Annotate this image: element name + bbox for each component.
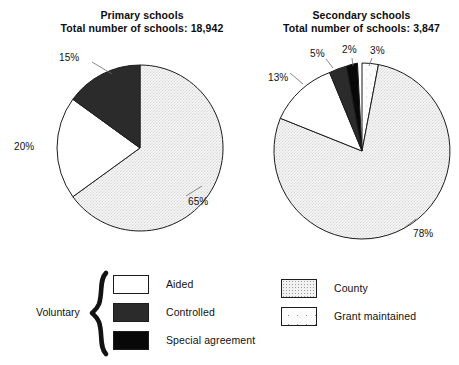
secondary-label-controlled: 5%	[310, 48, 325, 59]
legend-item-county[interactable]: County	[281, 274, 416, 302]
secondary-label-county: 78%	[413, 228, 433, 239]
primary-label-aided: 20%	[14, 141, 34, 152]
legend-left: Aided Controlled Special agreement	[113, 270, 255, 354]
figure-pie-charts: Primary schools Total number of schools:…	[0, 0, 459, 365]
legend-label-grant-maintained: Grant maintained	[334, 310, 416, 322]
legend-label-special-agreement: Special agreement	[166, 334, 255, 346]
legend-swatch-controlled	[113, 303, 149, 322]
legend-item-grant-maintained[interactable]: Grant maintained	[281, 302, 416, 330]
primary-label-controlled: 15%	[59, 52, 79, 63]
legend-label-controlled: Controlled	[166, 306, 215, 318]
primary-leader-controlled	[92, 62, 112, 74]
legend-swatch-county	[281, 279, 317, 298]
legend-swatch-grant-maintained	[281, 307, 317, 326]
legend-swatch-aided	[113, 275, 149, 294]
secondary-leader-controlled	[326, 59, 333, 68]
secondary-label-special-agreement: 2%	[342, 44, 357, 55]
secondary-pie	[274, 63, 450, 239]
secondary-leader-aided	[290, 73, 303, 84]
legend-item-special-agreement[interactable]: Special agreement	[113, 326, 255, 354]
legend-swatch-special-agreement	[113, 331, 149, 350]
legend-item-aided[interactable]: Aided	[113, 270, 255, 298]
legend-label-aided: Aided	[166, 278, 193, 290]
voluntary-brace-icon	[92, 273, 106, 354]
legend-group-label-voluntary: Voluntary	[36, 306, 80, 318]
primary-label-county: 65%	[188, 196, 208, 207]
secondary-label-grant-maintained: 3%	[370, 45, 385, 56]
legend-right: County Grant maintained	[281, 274, 416, 330]
legend-item-controlled[interactable]: Controlled	[113, 298, 255, 326]
secondary-label-aided: 13%	[268, 72, 288, 83]
legend-label-county: County	[334, 282, 368, 294]
